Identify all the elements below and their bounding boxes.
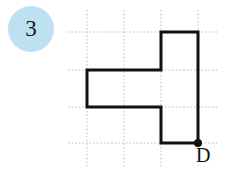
- geometry-figure: [0, 0, 227, 175]
- t-shaped-polygon-outline: [87, 32, 198, 143]
- point-d-label: D: [196, 145, 210, 165]
- figure-canvas: 3 D: [0, 0, 227, 175]
